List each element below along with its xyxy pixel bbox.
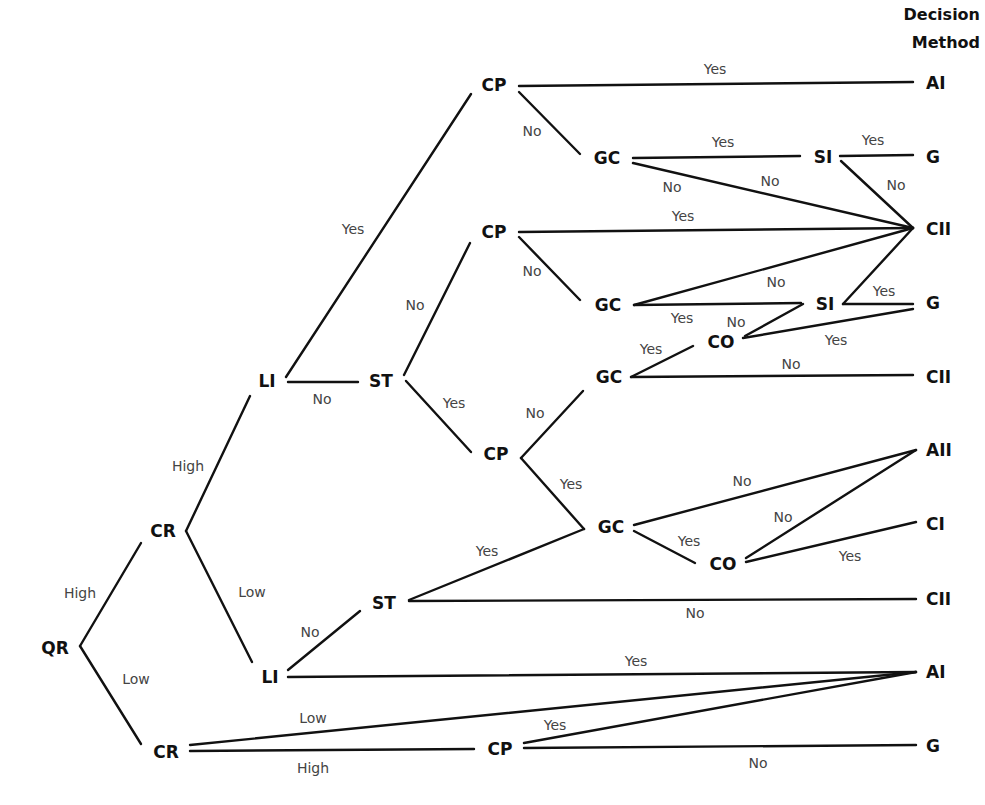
edges-layer <box>80 82 916 751</box>
header-method: Method <box>912 33 980 52</box>
edge-label: Yes <box>442 395 466 411</box>
edge-label: Yes <box>861 132 885 148</box>
node-co2: CO <box>710 554 737 574</box>
edge-label: No <box>522 123 541 139</box>
node-cp1: CP <box>482 75 507 95</box>
edge-cp4-to-ai2 <box>524 672 916 743</box>
edge-label: No <box>522 263 541 279</box>
edge-si2-to-co1 <box>745 304 803 336</box>
nodes-layer: QRCRCRLILISTSTCPCPCPCPGCGCGCGCCOCOSISIAI… <box>41 73 952 762</box>
node-co1: CO <box>708 332 735 352</box>
edge-labels-layer: HighLowHighLowLowHighYesNoNoYesNoYesYesN… <box>64 61 906 776</box>
edge-label: No <box>766 274 785 290</box>
node-gc4: GC <box>598 517 624 537</box>
node-cr2: CR <box>153 742 179 762</box>
edge-cp1-to-ai1 <box>519 82 913 86</box>
edge-label: No <box>662 179 681 195</box>
edge-label: No <box>300 624 319 640</box>
node-g1: G <box>926 147 940 167</box>
edge-label: High <box>64 585 96 601</box>
edge-label: No <box>781 356 800 372</box>
edge-label: High <box>297 760 329 776</box>
edge-label: Yes <box>475 543 499 559</box>
edge-label: No <box>685 605 704 621</box>
edge-cp3-to-gc3 <box>521 391 583 458</box>
node-si2: SI <box>816 294 835 314</box>
edge-label: Yes <box>671 208 695 224</box>
node-li2: LI <box>261 667 278 687</box>
edge-label: Low <box>238 584 266 600</box>
edge-label: Yes <box>341 221 365 237</box>
edge-gc2-to-si2 <box>634 303 801 305</box>
node-cp2: CP <box>482 222 507 242</box>
node-ci: CI <box>926 514 945 534</box>
edge-label: Low <box>299 710 327 726</box>
node-gc3: GC <box>596 367 622 387</box>
edge-cr2-to-ai2 <box>190 672 916 745</box>
node-qr: QR <box>41 638 69 658</box>
edge-label: No <box>760 173 779 189</box>
node-g3: G <box>926 736 940 756</box>
edge-label: Yes <box>872 283 896 299</box>
edge-gc2-to-cii1 <box>634 228 913 305</box>
node-ai1: AI <box>926 73 945 93</box>
node-st1: ST <box>369 371 393 391</box>
edge-label: No <box>748 755 767 771</box>
node-ai2: AI <box>926 662 945 682</box>
edge-label: Yes <box>543 717 567 733</box>
edge-st1-to-cp3 <box>406 381 471 452</box>
edge-label: Yes <box>559 476 583 492</box>
edge-label: Yes <box>677 533 701 549</box>
edge-label: No <box>886 177 905 193</box>
node-aii: AII <box>926 440 952 460</box>
edge-label: No <box>525 405 544 421</box>
edge-label: No <box>405 297 424 313</box>
node-cii2: CII <box>926 367 951 387</box>
decision-tree-diagram: HighLowHighLowLowHighYesNoNoYesNoYesYesN… <box>0 0 985 805</box>
node-li1: LI <box>258 371 275 391</box>
edge-label: Yes <box>624 653 648 669</box>
edge-label: No <box>312 391 331 407</box>
header-decision: Decision <box>904 5 981 24</box>
edge-label: Yes <box>824 332 848 348</box>
edge-label: Yes <box>711 134 735 150</box>
node-cii1: CII <box>926 219 951 239</box>
node-g2: G <box>926 293 940 313</box>
edge-cp3-to-gc4 <box>521 458 584 529</box>
edge-gc3-to-cii2 <box>631 375 913 377</box>
node-cp3: CP <box>484 444 509 464</box>
edge-li2-to-ai2 <box>288 672 916 677</box>
edge-label: No <box>726 314 745 330</box>
edge-label: No <box>773 509 792 525</box>
node-cp4: CP <box>488 739 513 759</box>
edge-label: No <box>732 473 751 489</box>
node-gc2: GC <box>595 295 621 315</box>
edge-label: Yes <box>703 61 727 77</box>
edge-label: High <box>172 458 204 474</box>
edge-label: Yes <box>639 341 663 357</box>
edge-li2-to-st2 <box>288 611 360 670</box>
edge-si1-to-g1 <box>840 155 913 156</box>
edge-si1-to-cii1 <box>841 161 913 228</box>
node-cii3: CII <box>926 589 951 609</box>
edge-st2-to-cii3 <box>409 599 916 601</box>
edge-gc1-to-si1 <box>633 156 800 158</box>
edge-label: Yes <box>670 310 694 326</box>
edge-st2-to-gc4 <box>409 529 584 600</box>
edge-li1-to-cp1 <box>286 94 471 377</box>
edge-label: Yes <box>838 548 862 564</box>
node-st2: ST <box>372 593 396 613</box>
edge-cp2-to-cii1 <box>519 228 913 232</box>
edge-cp4-to-g3 <box>524 745 916 748</box>
column-header: Decision Method <box>904 5 981 52</box>
node-cr1: CR <box>150 521 176 541</box>
node-si1: SI <box>814 147 833 167</box>
node-gc1: GC <box>594 148 620 168</box>
edge-cr2-to-cp4 <box>190 749 474 751</box>
edge-qr-to-cr2 <box>80 646 141 744</box>
edge-label: Low <box>122 671 150 687</box>
